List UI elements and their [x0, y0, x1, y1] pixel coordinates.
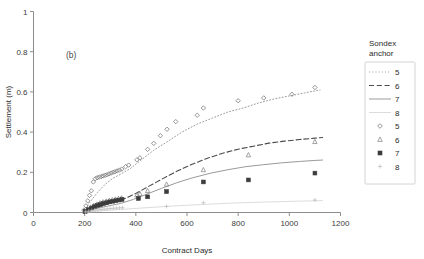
x-tick-label: 400	[129, 219, 143, 228]
data-point-marker	[126, 163, 130, 167]
data-point-marker	[201, 167, 205, 171]
x-tick-label: 1200	[332, 219, 350, 228]
data-point-marker	[145, 147, 149, 151]
legend-item-label: 7	[395, 95, 400, 104]
settlement-vs-contract-days-chart: 02004006008001000120000.20.40.60.81 (b) …	[0, 0, 424, 259]
y-axis-title: Settlement (m)	[4, 85, 13, 138]
legend-item-label: 5	[395, 68, 400, 77]
data-point-marker	[89, 189, 93, 193]
data-point-marker	[313, 139, 317, 143]
data-point-marker	[136, 197, 140, 201]
legend-item-label: 6	[395, 136, 400, 145]
y-tick-label: 0.8	[16, 48, 28, 57]
x-tick-label: 0	[31, 219, 36, 228]
data-point-marker	[236, 99, 240, 103]
legend-item-label: 7	[395, 149, 400, 158]
data-point-marker	[195, 113, 199, 117]
data-point-marker	[165, 190, 169, 194]
series-marker-5	[82, 85, 317, 212]
y-tick-label: 0	[23, 209, 28, 218]
data-point-marker	[152, 141, 156, 145]
data-point-marker	[201, 180, 205, 184]
data-point-marker	[123, 164, 127, 168]
data-point-marker	[247, 178, 251, 182]
plot-series	[82, 85, 323, 214]
data-point-marker	[378, 151, 382, 155]
plot-axes: 02004006008001000120000.20.40.60.81	[16, 8, 350, 228]
chart-canvas: 02004006008001000120000.20.40.60.81 (b) …	[0, 0, 424, 259]
data-point-marker	[201, 106, 205, 110]
data-point-marker	[165, 204, 169, 208]
data-point-marker	[120, 198, 124, 202]
series-marker-7	[83, 171, 317, 213]
x-tick-label: 200	[78, 219, 92, 228]
data-point-marker	[262, 96, 266, 100]
data-point-marker	[246, 153, 250, 157]
y-tick-label: 0.6	[16, 88, 28, 97]
y-tick-label: 0.2	[16, 168, 28, 177]
legend-title-line: anchor	[369, 49, 394, 58]
axis-frame	[34, 12, 341, 213]
x-axis-title: Contract Days	[162, 246, 213, 255]
data-point-marker	[164, 182, 168, 186]
data-point-marker	[158, 134, 162, 138]
x-tick-label: 1000	[280, 219, 298, 228]
legend-box	[365, 62, 415, 184]
data-point-marker	[313, 171, 317, 175]
y-tick-label: 1	[23, 8, 28, 17]
legend: Sondexanchor56785678	[365, 39, 415, 184]
legend-item-label: 5	[395, 122, 400, 131]
y-tick-label: 0.4	[16, 128, 28, 137]
data-point-marker	[165, 127, 169, 131]
data-point-marker	[174, 119, 178, 123]
legend-title-line: Sondex	[369, 39, 396, 48]
legend-item-label: 6	[395, 82, 400, 91]
legend-item-label: 8	[395, 109, 400, 118]
legend-item-label: 8	[395, 163, 400, 172]
x-tick-label: 600	[180, 219, 194, 228]
data-point-marker	[313, 85, 317, 89]
panel-label: (b)	[66, 50, 77, 60]
x-tick-label: 800	[231, 219, 245, 228]
data-point-marker	[145, 188, 149, 192]
data-point-marker	[146, 195, 150, 199]
data-point-marker	[87, 193, 91, 197]
data-point-marker	[313, 198, 317, 202]
